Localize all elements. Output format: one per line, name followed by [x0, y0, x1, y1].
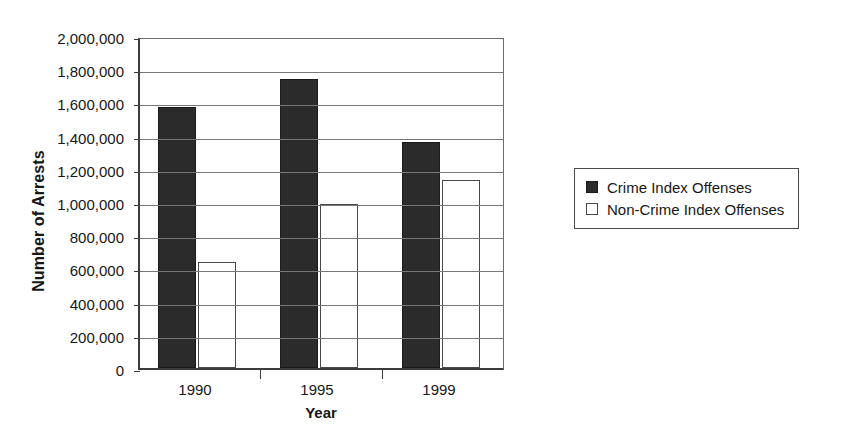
y-axis-tick — [134, 205, 140, 206]
gridline — [140, 105, 503, 106]
y-axis-tick — [134, 172, 140, 173]
gridline — [140, 271, 503, 272]
x-axis-separator-tick — [260, 370, 261, 379]
bar — [402, 142, 440, 368]
y-axis-tick-label: 0 — [116, 362, 124, 379]
y-axis-tick-label: 1,800,000 — [57, 63, 124, 80]
legend-item-label: Non-Crime Index Offenses — [607, 201, 784, 218]
y-axis-tick-label: 600,000 — [70, 262, 124, 279]
y-axis-tick — [134, 72, 140, 73]
y-axis-tick-label: 800,000 — [70, 229, 124, 246]
y-axis-tick-label: 1,000,000 — [57, 196, 124, 213]
gridline — [140, 238, 503, 239]
y-axis-tick — [134, 238, 140, 239]
y-axis-tick — [134, 338, 140, 339]
y-axis-tick-label: 1,200,000 — [57, 162, 124, 179]
gridline — [140, 305, 503, 306]
legend-item: Non-Crime Index Offenses — [586, 198, 784, 220]
chart-legend: Crime Index OffensesNon-Crime Index Offe… — [574, 168, 799, 229]
bar — [198, 262, 236, 368]
gridline — [140, 139, 503, 140]
y-axis-tick — [134, 305, 140, 306]
bar — [280, 79, 318, 368]
y-axis-tick — [134, 371, 140, 372]
y-axis-tick-label: 200,000 — [70, 328, 124, 345]
y-axis-tick-label: 400,000 — [70, 295, 124, 312]
x-axis-separator-tick — [382, 370, 383, 379]
legend-swatch-hollow-icon — [586, 203, 598, 215]
legend-swatch-filled-icon — [586, 181, 598, 193]
x-axis-tick-label: 1990 — [178, 381, 211, 398]
y-axis-tick — [134, 39, 140, 40]
gridline — [140, 172, 503, 173]
y-axis-tick — [134, 105, 140, 106]
x-axis-title: Year — [138, 404, 504, 421]
gridline — [140, 72, 503, 73]
y-axis-tick-label: 1,600,000 — [57, 96, 124, 113]
bar-series-layer — [140, 39, 503, 368]
legend-item-label: Crime Index Offenses — [607, 179, 752, 196]
y-axis-tick — [134, 139, 140, 140]
x-axis-tick-label: 1995 — [300, 381, 333, 398]
bar — [442, 180, 480, 368]
plot-area — [138, 38, 504, 370]
gridline — [140, 338, 503, 339]
gridline — [140, 205, 503, 206]
y-axis-tick-label: 1,400,000 — [57, 129, 124, 146]
y-axis-tick — [134, 271, 140, 272]
y-axis-tick-label: 2,000,000 — [57, 30, 124, 47]
x-axis-tick-label: 1999 — [422, 381, 455, 398]
legend-item: Crime Index Offenses — [586, 176, 784, 198]
bar-chart-figure: Number of Arrests 0200,000400,000600,000… — [0, 0, 861, 444]
y-axis-tick-labels: 0200,000400,000600,000800,0001,000,0001,… — [20, 38, 132, 370]
bar — [320, 204, 358, 368]
